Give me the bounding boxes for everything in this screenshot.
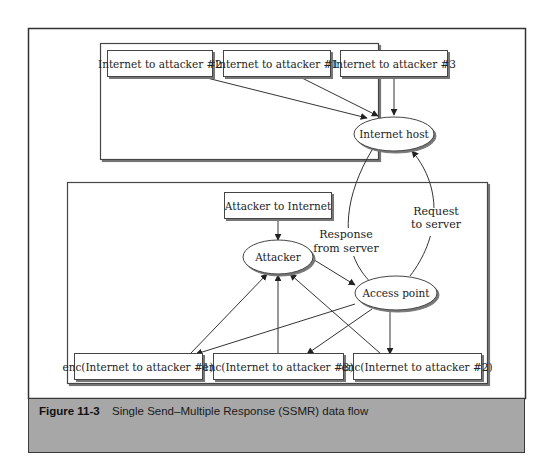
svg-text:Internet to attacker #1: Internet to attacker #1 xyxy=(215,58,339,70)
node-attacker[interactable]: Attacker xyxy=(243,240,313,274)
figure-caption-bar: Figure 11-3 Single Send–Multiple Respons… xyxy=(28,398,525,453)
figure: Response from server Request to server I… xyxy=(0,0,550,458)
figure-caption: Single Send–Multiple Response (SSMR) dat… xyxy=(112,405,368,417)
edge-label-response: Response from server xyxy=(313,228,379,256)
node-internet-to-attacker-2[interactable]: Internet to attacker #2 xyxy=(98,51,222,77)
figure-label: Figure 11-3 xyxy=(39,405,100,417)
diagram-canvas: Response from server Request to server I… xyxy=(0,0,550,458)
svg-text:Response: Response xyxy=(319,228,372,241)
node-internet-to-attacker-1[interactable]: Internet to attacker #1 xyxy=(215,51,339,77)
svg-text:Internet to attacker #3: Internet to attacker #3 xyxy=(332,58,456,70)
svg-text:Request: Request xyxy=(413,205,459,218)
svg-text:Access point: Access point xyxy=(361,287,430,299)
svg-text:from server: from server xyxy=(313,242,379,255)
node-internet-host[interactable]: Internet host xyxy=(354,117,434,151)
svg-text:enc(Internet to attacker #3): enc(Internet to attacker #3) xyxy=(202,361,353,373)
node-attacker-to-internet[interactable]: Attacker to Internet xyxy=(224,193,332,219)
node-enc-internet-to-attacker-1[interactable]: enc(Internet to attacker #1) xyxy=(62,354,213,380)
node-access-point[interactable]: Access point xyxy=(355,276,437,310)
node-enc-internet-to-attacker-3[interactable]: enc(Internet to attacker #3) xyxy=(202,354,353,380)
svg-text:enc(Internet to attacker #1): enc(Internet to attacker #1) xyxy=(62,361,213,373)
svg-text:Attacker: Attacker xyxy=(254,251,302,263)
svg-text:Internet to attacker #2: Internet to attacker #2 xyxy=(98,58,222,70)
svg-text:enc(Internet to attacker #2): enc(Internet to attacker #2) xyxy=(341,361,492,373)
svg-text:Internet host: Internet host xyxy=(359,128,429,140)
svg-text:to server: to server xyxy=(411,218,462,231)
node-internet-to-attacker-3[interactable]: Internet to attacker #3 xyxy=(332,51,456,77)
node-enc-internet-to-attacker-2[interactable]: enc(Internet to attacker #2) xyxy=(341,354,492,380)
svg-text:Attacker to Internet: Attacker to Internet xyxy=(224,200,332,212)
edge-label-request: Request to server xyxy=(411,205,462,236)
